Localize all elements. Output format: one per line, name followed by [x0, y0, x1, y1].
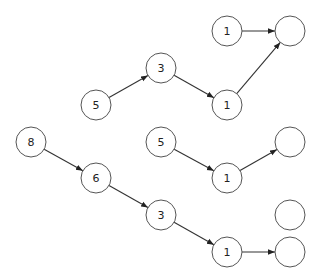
graph-node: 1 [212, 16, 242, 46]
nodes-layer: 1351856131 [16, 16, 305, 267]
node-label: 5 [93, 99, 100, 112]
node-label: 1 [224, 246, 231, 259]
graph-node: 5 [81, 90, 111, 120]
graph-diagram: 1351856131 [0, 0, 324, 280]
node-circle [275, 127, 305, 157]
node-label: 8 [28, 136, 35, 149]
graph-node-empty [275, 237, 305, 267]
edge-arrow [109, 185, 148, 207]
graph-node-empty [275, 16, 305, 46]
node-label: 1 [224, 99, 231, 112]
graph-node-empty [275, 200, 305, 230]
node-label: 1 [224, 25, 231, 38]
graph-node: 1 [212, 237, 242, 267]
graph-node: 3 [146, 200, 176, 230]
edge-arrow [44, 149, 83, 170]
graph-node: 3 [146, 53, 176, 83]
node-circle [275, 237, 305, 267]
node-label: 6 [93, 172, 100, 185]
node-circle [275, 16, 305, 46]
edge-arrow [109, 75, 148, 97]
edge-arrow [174, 75, 214, 97]
node-label: 3 [158, 209, 165, 222]
node-circle [275, 200, 305, 230]
graph-node: 5 [146, 127, 176, 157]
graph-node: 6 [81, 163, 111, 193]
node-label: 1 [224, 172, 231, 185]
edge-arrow [240, 149, 277, 170]
graph-node: 1 [212, 163, 242, 193]
edge-arrow [174, 222, 214, 244]
graph-node: 8 [16, 127, 46, 157]
graph-node: 1 [212, 90, 242, 120]
graph-node-empty [275, 127, 305, 157]
edge-arrow [237, 42, 281, 93]
edge-arrow [174, 149, 214, 171]
node-label: 5 [158, 136, 165, 149]
node-label: 3 [158, 62, 165, 75]
